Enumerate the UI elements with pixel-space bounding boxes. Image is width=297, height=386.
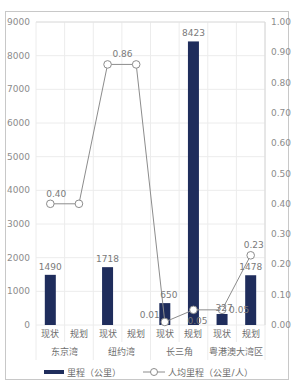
y-left-tick: 6000: [7, 118, 30, 128]
line-marker-icon: [143, 367, 165, 377]
y-right-tick: 1.00: [271, 17, 291, 27]
y-right-tick: 0.70: [271, 108, 291, 118]
bar-value-label: 650: [160, 290, 177, 300]
bar: [188, 41, 199, 325]
y-left-tick: 2000: [7, 253, 30, 263]
y-left-tick: 8000: [7, 51, 30, 61]
x-category-label: 现状: [99, 328, 117, 339]
x-category-label: 现状: [41, 328, 59, 339]
x-group-label: 粤港澳大湾区: [209, 346, 263, 357]
x-category-label: 规划: [184, 328, 202, 339]
y-right-tick: 0.10: [271, 290, 291, 300]
x-category-label: 现状: [156, 328, 174, 339]
legend-line-label: 人均里程（公里/人）: [168, 366, 252, 379]
y-left-tick: 9000: [7, 17, 30, 27]
y-left-tick: 4000: [7, 185, 30, 195]
y-left-tick: 1000: [7, 286, 30, 296]
line-value-label: 0.05: [229, 305, 249, 315]
x-category-label: 规划: [127, 328, 145, 339]
y-left-tick: 7000: [7, 84, 30, 94]
x-category-label: 规划: [70, 328, 88, 339]
bar-value-label: 1718: [96, 254, 119, 264]
y-right-tick: 0.00: [271, 320, 291, 330]
y-left-tick: 5000: [7, 152, 30, 162]
y-right-tick: 0.50: [271, 169, 291, 179]
legend-bar-label: 里程（公里）: [67, 366, 121, 379]
y-right-tick: 0.80: [271, 78, 291, 88]
bar-value-label: 1490: [39, 262, 62, 272]
line-value-label: 0.23: [244, 240, 264, 250]
combo-chart: 01000200030004000500060007000800090000.0…: [0, 0, 297, 386]
bar-value-label: 1478: [239, 262, 262, 272]
x-group-label: 长三角: [166, 346, 193, 357]
legend: 里程（公里） 人均里程（公里/人）: [0, 365, 297, 379]
y-right-tick: 0.90: [271, 47, 291, 57]
bar: [102, 267, 113, 325]
line-value-label: 0.86: [113, 49, 133, 59]
line-marker: [75, 200, 83, 208]
y-right-tick: 0.60: [271, 138, 291, 148]
x-group-label: 纽约湾: [108, 346, 135, 357]
bar: [245, 275, 256, 325]
bar: [45, 275, 56, 325]
x-category-label: 规划: [242, 328, 260, 339]
line-marker: [47, 200, 55, 208]
bar-value-label: 8423: [182, 28, 205, 38]
line-marker: [190, 306, 198, 314]
x-category-label: 现状: [213, 328, 231, 339]
y-left-tick: 0: [24, 320, 30, 330]
legend-item-line: 人均里程（公里/人）: [143, 366, 252, 379]
y-right-tick: 0.20: [271, 259, 291, 269]
line-marker: [132, 61, 140, 69]
line-value-label: 0.05: [187, 316, 207, 326]
y-left-tick: 3000: [7, 219, 30, 229]
bar: [217, 314, 228, 325]
line-value-label: 0.40: [46, 189, 66, 199]
x-group-label: 东京湾: [51, 346, 78, 357]
line-marker: [104, 61, 112, 69]
line-marker: [247, 252, 255, 260]
y-right-tick: 0.40: [271, 199, 291, 209]
line-value-label: 0.01: [140, 310, 160, 320]
legend-item-bar: 里程（公里）: [44, 366, 121, 379]
line-marker: [161, 318, 169, 326]
bar-swatch-icon: [44, 370, 64, 374]
y-right-tick: 0.30: [271, 229, 291, 239]
